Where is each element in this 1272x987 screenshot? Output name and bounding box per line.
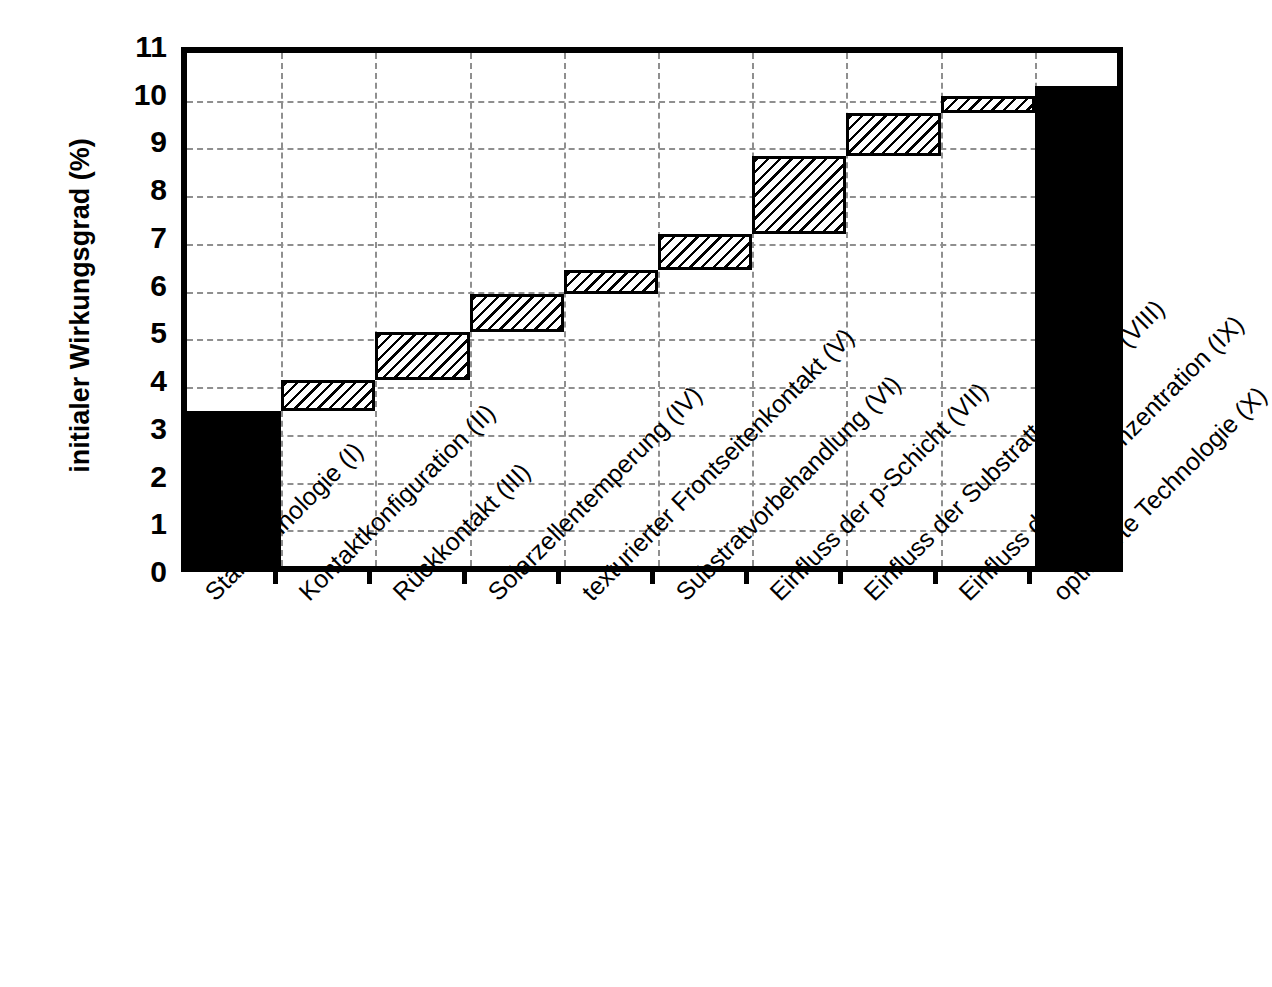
gridline-horizontal xyxy=(187,339,1117,341)
y-axis-tick-label: 5 xyxy=(107,316,167,350)
gridline-horizontal xyxy=(187,148,1117,150)
y-axis-tick-label: 7 xyxy=(107,221,167,255)
bar-6 xyxy=(658,234,752,270)
gridline-vertical xyxy=(941,53,943,566)
gridline-vertical xyxy=(658,53,660,566)
gridline-horizontal xyxy=(187,196,1117,198)
y-axis-tick-label: 9 xyxy=(107,125,167,159)
bar-2 xyxy=(281,380,375,411)
y-axis-tick-label: 11 xyxy=(107,30,167,64)
y-axis-tick-label: 8 xyxy=(107,173,167,207)
bar-3 xyxy=(375,332,469,380)
y-axis-title: initialer Wirkungsgrad (%) xyxy=(65,76,96,536)
y-axis-tick-label: 6 xyxy=(107,269,167,303)
y-axis-tick-label: 4 xyxy=(107,364,167,398)
gridline-horizontal xyxy=(187,244,1117,246)
gridline-vertical xyxy=(564,53,566,566)
y-axis-tick-label: 0 xyxy=(107,555,167,589)
gridline-vertical xyxy=(281,53,283,566)
bar-7 xyxy=(752,156,846,235)
bar-5 xyxy=(564,270,658,294)
y-axis-tick-label: 2 xyxy=(107,460,167,494)
y-axis-tick-label: 1 xyxy=(107,507,167,541)
bar-9 xyxy=(941,96,1035,113)
bar-4 xyxy=(470,294,564,332)
gridline-vertical xyxy=(375,53,377,566)
gridline-vertical xyxy=(752,53,754,566)
y-axis-tick-label: 3 xyxy=(107,412,167,446)
bar-8 xyxy=(846,113,940,156)
y-axis-tick-label: 10 xyxy=(107,78,167,112)
